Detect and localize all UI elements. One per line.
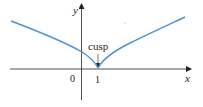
cusp-graph: y x 0 1 cusp (0, 0, 203, 107)
tick-label-1: 1 (95, 74, 100, 85)
curve-left-branch (11, 21, 98, 68)
y-axis-label: y (72, 4, 78, 16)
curve-right-branch (98, 17, 185, 68)
stray-dot (125, 23, 126, 24)
origin-label: 0 (70, 73, 75, 84)
x-axis-label: x (184, 72, 190, 84)
cusp-label: cusp (88, 40, 109, 52)
